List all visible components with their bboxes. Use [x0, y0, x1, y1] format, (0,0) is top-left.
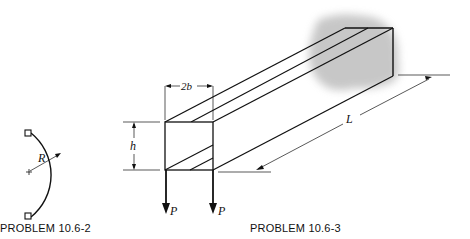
beam-figure: 2b h L P P: [123, 14, 450, 218]
beam-bottom-edge-right: [213, 76, 393, 170]
caption-problem-10-6-2: PROBLEM 10.6-2: [0, 222, 91, 234]
width-label: 2b: [181, 80, 193, 92]
height-arrow-top-icon: [132, 122, 136, 128]
load-left-arrowhead-icon: [162, 203, 170, 214]
height-arrow-bottom-icon: [132, 164, 136, 170]
length-arrow-lower-icon: [256, 165, 264, 170]
beam-cross-section: [165, 122, 213, 170]
length-dimension-line-lower: [258, 124, 343, 169]
diagram-canvas: R 2b h: [0, 0, 470, 239]
height-label: h: [130, 139, 136, 153]
bottom-pin-support-icon: [25, 213, 31, 219]
width-arrow-left-icon: [165, 84, 171, 88]
caption-problem-10-6-3: PROBLEM 10.6-3: [250, 222, 341, 234]
load-right-label: P: [217, 204, 226, 218]
load-left-label: P: [169, 204, 178, 218]
length-label: L: [345, 112, 353, 126]
radius-arrowhead-icon: [55, 153, 61, 158]
radius-label: R: [37, 151, 46, 165]
semicircular-arc: [31, 133, 51, 217]
width-arrow-right-icon: [207, 84, 213, 88]
top-pin-support-icon: [25, 130, 31, 136]
arc-figure: R: [25, 130, 61, 219]
load-right-arrowhead-icon: [209, 203, 217, 214]
